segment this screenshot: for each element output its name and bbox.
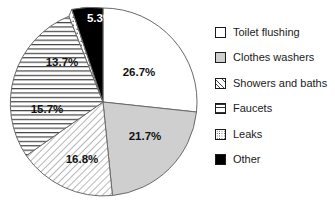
legend: Toilet flushing Clothes washers Showers … — [215, 26, 335, 178]
slice-label-other: 5.3% — [87, 12, 113, 24]
slice-label-toilet-flushing: 26.7% — [123, 66, 156, 78]
legend-item-label: Other — [233, 154, 261, 165]
legend-item-leaks[interactable]: Leaks — [215, 128, 335, 141]
legend-item-toilet-flushing[interactable]: Toilet flushing — [215, 26, 335, 39]
solid-white-swatch-icon — [215, 27, 226, 38]
legend-item-faucets[interactable]: Faucets — [215, 102, 335, 115]
diagonal-hatch-swatch-icon — [215, 78, 226, 89]
dotted-swatch-icon — [215, 129, 226, 140]
solid-black-swatch-icon — [215, 154, 226, 165]
solid-gray-swatch-icon — [215, 52, 226, 63]
legend-item-label: Faucets — [233, 103, 272, 114]
legend-item-label: Leaks — [233, 129, 262, 140]
legend-item-showers-and-baths[interactable]: Showers and baths — [215, 77, 335, 90]
slice-label-leaks: 13.7% — [46, 56, 79, 68]
legend-item-clothes-washers[interactable]: Clothes washers — [215, 51, 335, 64]
pie-chart: 26.7% 21.7% 16.8% 15.7% 13.7% 5.3% — [0, 0, 206, 206]
slice-label-showers-and-baths: 16.8% — [66, 153, 99, 165]
pie-chart-figure: 26.7% 21.7% 16.8% 15.7% 13.7% 5.3% Toile… — [0, 0, 335, 206]
pie-slice-clothes-washers[interactable] — [103, 102, 196, 196]
slice-label-clothes-washers: 21.7% — [129, 130, 162, 142]
legend-item-other[interactable]: Other — [215, 153, 335, 166]
legend-item-label: Toilet flushing — [233, 27, 300, 38]
slice-label-faucets: 15.7% — [31, 103, 64, 115]
horizontal-lines-swatch-icon — [215, 103, 226, 114]
legend-item-label: Showers and baths — [233, 78, 327, 89]
pie-slice-toilet-flushing[interactable] — [103, 8, 197, 112]
legend-item-label: Clothes washers — [233, 52, 314, 63]
